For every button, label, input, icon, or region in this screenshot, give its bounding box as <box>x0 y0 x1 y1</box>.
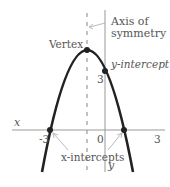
y-intercept-label: y-intercept <box>110 58 170 70</box>
parabola-diagram: Axis of symmetry Vertex y-intercept x-in… <box>0 0 170 187</box>
vertex-point <box>84 47 90 53</box>
tick-x-neg3: -3 <box>39 133 49 145</box>
y-axis-label: y <box>107 159 115 172</box>
x-axis-label: x <box>14 116 21 129</box>
x-intercept-right-arrow <box>108 134 121 150</box>
tick-x-pos3: 3 <box>154 133 161 145</box>
x-intercept-left-arrow <box>54 134 68 150</box>
vertex-label: Vertex <box>48 38 83 50</box>
tick-x-zero: 0 <box>97 133 104 145</box>
axis-of-symmetry-label-2: symmetry <box>111 27 167 40</box>
x-intercepts-label: x-intercepts <box>61 151 124 163</box>
x-intercept-right-point <box>121 127 127 133</box>
tick-y-three: 3 <box>97 73 104 85</box>
